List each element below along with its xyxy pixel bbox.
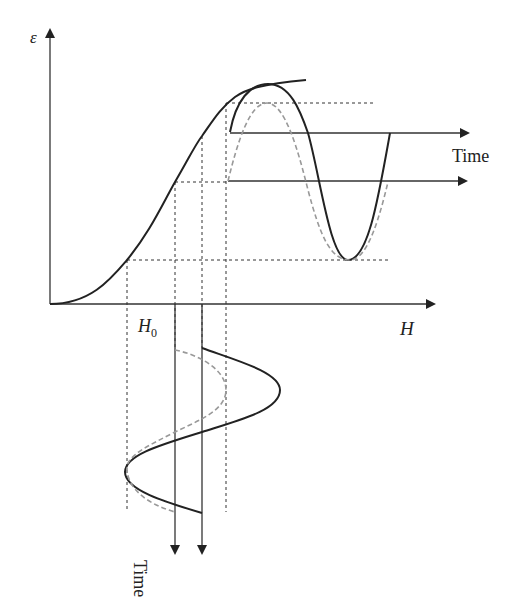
y-axis-label: ε bbox=[30, 28, 37, 48]
time-label-bottom: Time bbox=[129, 560, 150, 597]
input-field-dashed bbox=[127, 350, 226, 512]
bias-field-symbol: H bbox=[138, 316, 151, 336]
bias-field-label: H0 bbox=[138, 316, 157, 341]
x-axis-label: H bbox=[400, 318, 414, 340]
magnetostriction-curve bbox=[50, 80, 306, 304]
bias-field-subscript: 0 bbox=[151, 326, 157, 340]
dotted-guides bbox=[127, 103, 388, 512]
magnetostriction-diagram bbox=[0, 0, 513, 603]
time-label-right: Time bbox=[452, 146, 489, 167]
